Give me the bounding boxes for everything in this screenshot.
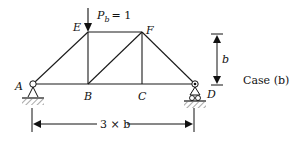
member-BF [88, 32, 142, 84]
load-arrow [84, 8, 92, 32]
node-label-E: E [72, 21, 81, 34]
node-label-F: F [145, 24, 154, 37]
span-dimension-label: 3 × b [100, 118, 130, 131]
case-label: Case (b) [243, 74, 289, 87]
node-label-B: B [83, 90, 92, 103]
roller-support-D [184, 81, 206, 108]
truss-diagram: Pb= 1 A B C D E F b Case (b) 3 × b [0, 0, 292, 141]
node-label-C: C [138, 90, 147, 103]
node-label-A: A [14, 80, 23, 93]
node-label-D: D [206, 88, 216, 101]
load-label: Pb= 1 [96, 9, 131, 24]
arrow-down-icon [84, 23, 92, 32]
truss-members [35, 32, 193, 84]
member-FD [142, 32, 193, 82]
member-AE [35, 32, 88, 82]
height-dimension-label: b [222, 53, 229, 66]
